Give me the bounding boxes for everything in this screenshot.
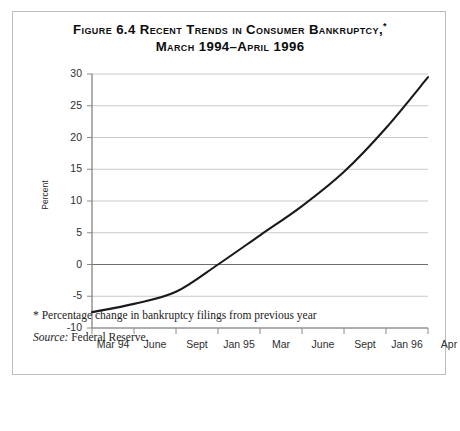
y-axis-tick-label: 10: [56, 194, 82, 206]
figure-footnote: * Percentage change in bankruptcy filing…: [33, 308, 433, 323]
y-axis-tick-label: 30: [56, 67, 82, 79]
figure-source-body: Federal Reserve.: [68, 331, 148, 343]
figure-source: Source: Federal Reserve.: [33, 330, 433, 345]
y-axis-tick-label: 0: [56, 258, 82, 270]
figure-notes: * Percentage change in bankruptcy filing…: [33, 308, 433, 345]
y-axis-tick-label: 25: [56, 99, 82, 111]
figure-source-lead: Source:: [33, 331, 68, 343]
y-axis-tick-label: 15: [56, 162, 82, 174]
data-series-line: [92, 77, 428, 312]
y-axis-tick-label: 20: [56, 131, 82, 143]
figure-container: Figure 6.4 Recent Trends in Consumer Ban…: [12, 11, 446, 375]
y-axis-tick-label: -5: [56, 289, 82, 301]
y-axis-title: Percent: [40, 160, 50, 230]
y-axis-tick-label: 5: [56, 226, 82, 238]
